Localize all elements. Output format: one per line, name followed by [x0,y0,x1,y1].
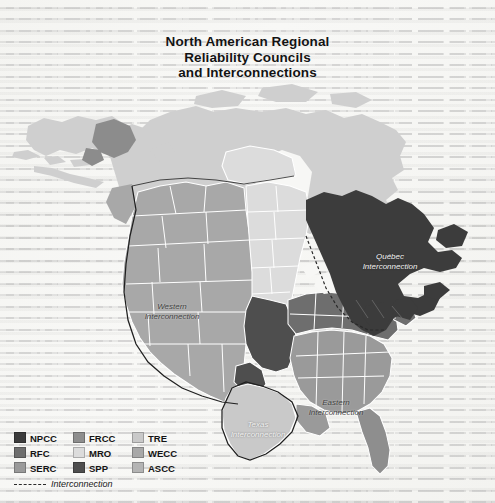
legend-item-frcc[interactable]: FRCC [73,430,132,445]
legend-label-interconnection: Interconnection [51,479,113,489]
legend-label-frcc: FRCC [89,433,123,444]
map-legend: NPCC FRCC TRE RFC MRO WECC [14,430,191,489]
north-america-map: .wb{stroke:#ffffff;stroke-width:1.05;str… [0,0,495,503]
map-figure: .wb{stroke:#ffffff;stroke-width:1.05;str… [0,0,495,503]
legend-swatch-spp [73,462,85,473]
legend-swatch-serc [14,462,26,473]
legend-item-ascc[interactable]: ASCC [132,460,191,475]
legend-row: RFC MRO WECC [14,445,191,460]
frcc-region [356,408,390,474]
legend-item-rfc[interactable]: RFC [14,445,73,460]
legend-item-interconnection: Interconnection [14,479,191,489]
legend-swatch-wecc [132,447,144,458]
legend-label-serc: SERC [30,463,64,474]
dashed-line-icon [14,484,46,485]
legend-swatch-frcc [73,432,85,443]
legend-swatch-npcc [14,432,26,443]
legend-swatch-tre [132,432,144,443]
legend-item-npcc[interactable]: NPCC [14,430,73,445]
legend-label-npcc: NPCC [30,433,64,444]
legend-item-spp[interactable]: SPP [73,460,132,475]
legend-item-wecc[interactable]: WECC [132,445,191,460]
legend-item-mro[interactable]: MRO [73,445,132,460]
legend-swatch-rfc [14,447,26,458]
legend-table: NPCC FRCC TRE RFC MRO WECC [14,430,191,475]
legend-item-tre[interactable]: TRE [132,430,191,445]
legend-label-ascc: ASCC [148,463,182,474]
legend-label-wecc: WECC [148,448,182,459]
legend-row: SERC SPP ASCC [14,460,191,475]
legend-swatch-mro [73,447,85,458]
legend-row: NPCC FRCC TRE [14,430,191,445]
legend-label-spp: SPP [89,463,123,474]
legend-label-mro: MRO [89,448,123,459]
legend-label-tre: TRE [148,433,182,444]
legend-label-rfc: RFC [30,448,64,459]
tre-region [222,384,296,460]
legend-item-serc[interactable]: SERC [14,460,73,475]
legend-swatch-ascc [132,462,144,473]
wecc-region [106,182,254,404]
